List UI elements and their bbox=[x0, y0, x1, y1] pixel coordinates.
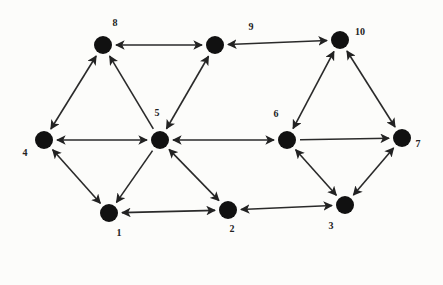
node-label-4: 4 bbox=[23, 147, 28, 158]
edge-6-7 bbox=[300, 138, 389, 140]
node-8 bbox=[94, 36, 112, 54]
node-2 bbox=[219, 201, 237, 219]
edge-6-3 bbox=[296, 150, 337, 196]
graph-diagram: 12345678910 bbox=[0, 0, 443, 285]
edge-10-7 bbox=[347, 51, 395, 127]
node-label-6: 6 bbox=[274, 108, 279, 119]
node-label-1: 1 bbox=[117, 227, 122, 238]
edge-5-8 bbox=[110, 56, 154, 129]
edge-5-1 bbox=[116, 151, 152, 203]
edge-7-3 bbox=[353, 148, 393, 195]
edge-1-2 bbox=[122, 210, 215, 212]
edge-8-4 bbox=[51, 56, 96, 129]
network-graph: 12345678910 bbox=[0, 0, 443, 285]
edge-9-10 bbox=[228, 41, 327, 45]
node-label-9: 9 bbox=[249, 21, 254, 32]
node-1 bbox=[100, 204, 118, 222]
edges-layer bbox=[51, 41, 395, 213]
node-3 bbox=[336, 196, 354, 214]
node-label-7: 7 bbox=[416, 138, 421, 149]
node-label-3: 3 bbox=[329, 220, 334, 231]
edge-4-1 bbox=[53, 150, 101, 204]
node-10 bbox=[331, 31, 349, 49]
edge-5-2 bbox=[169, 149, 219, 200]
node-label-10: 10 bbox=[355, 26, 365, 37]
node-5 bbox=[151, 131, 169, 149]
nodes-layer: 12345678910 bbox=[23, 17, 421, 238]
node-9 bbox=[206, 36, 224, 54]
edge-2-3 bbox=[241, 206, 332, 210]
node-label-2: 2 bbox=[230, 223, 235, 234]
node-6 bbox=[278, 131, 296, 149]
edge-10-6 bbox=[293, 51, 334, 128]
node-4 bbox=[35, 131, 53, 149]
node-7 bbox=[393, 129, 411, 147]
node-label-5: 5 bbox=[155, 107, 160, 118]
node-label-8: 8 bbox=[113, 17, 118, 28]
edge-9-5 bbox=[167, 56, 209, 128]
